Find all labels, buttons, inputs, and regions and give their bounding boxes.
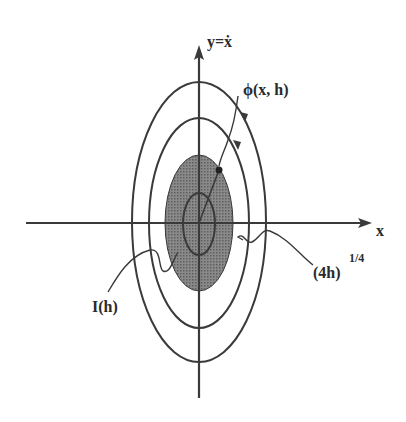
area-label: I(h) <box>92 298 118 316</box>
phase-plane-diagram: y=ẋ x ϕ(x, h) (4h) 1/4 I(h) <box>0 0 406 422</box>
amplitude-exponent-label: 1/4 <box>349 251 364 265</box>
x-axis-label: x <box>376 222 384 239</box>
y-axis-label: y=ẋ <box>207 33 232 51</box>
phi-label: ϕ(x, h) <box>243 81 289 99</box>
amplitude-label: (4h) <box>313 264 341 282</box>
phase-point <box>216 167 223 174</box>
flow-arrow-icon <box>240 112 248 122</box>
area-leader-line <box>108 250 178 292</box>
